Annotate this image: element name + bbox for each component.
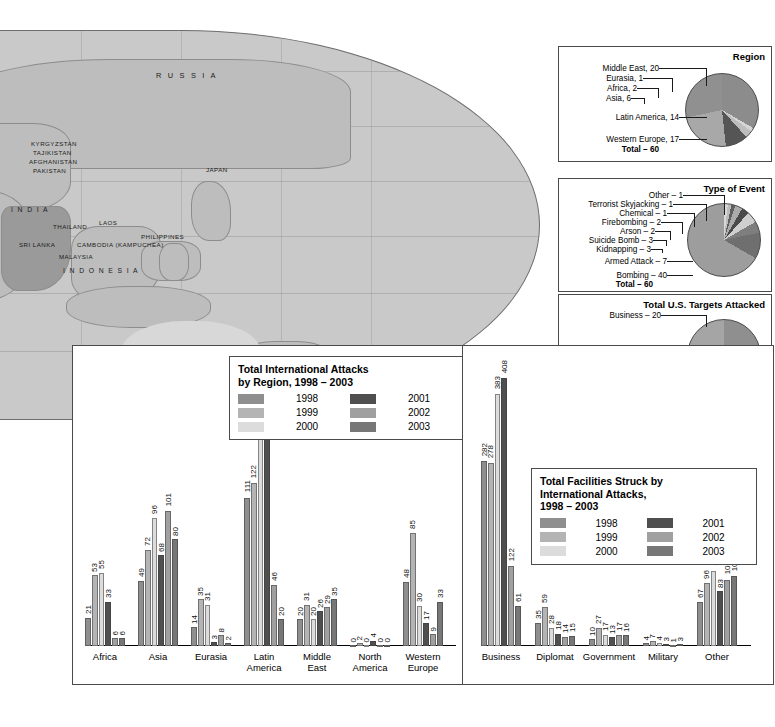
pie-slice-label: Middle East, 20 [603, 64, 659, 73]
bar-value-label: 2 [225, 636, 233, 640]
bar-value-label: 122 [508, 548, 516, 561]
bar-western-europe-2002 [430, 634, 436, 646]
bar-business-1999 [488, 463, 494, 646]
bar-middle-east-2000 [311, 619, 317, 646]
pie-slice-label: Arson – 2 [620, 227, 655, 236]
bar-value-label: 20 [278, 607, 286, 616]
category-label-diplomat: Diplomat [527, 651, 583, 662]
legend-swatch-2002 [350, 408, 376, 418]
map-label: TAJIKISTAN [33, 149, 72, 156]
bar-value-label: 31 [303, 592, 311, 601]
leader-line-vertical [706, 68, 707, 86]
bar-value-label: 101 [165, 493, 173, 506]
leader-line [661, 315, 707, 316]
bar-value-label: 30 [416, 593, 424, 602]
map-label: SRI LANKA [19, 241, 55, 248]
leader-line [673, 204, 707, 205]
map-label: CAMBODIA (KAMPUCHEA) [77, 241, 164, 248]
bar-value-label: 408 [501, 360, 509, 373]
pie-total-label: Total – 60 [616, 280, 653, 289]
legend-label-1999: 1999 [296, 407, 344, 418]
bar-other-1999 [704, 583, 710, 646]
category-label-latin-america: Latin America [236, 651, 292, 673]
bar-asia-2000 [152, 518, 158, 646]
map-label: R U S S I A [156, 71, 218, 80]
bar-north-america-2003 [384, 645, 390, 647]
category-label-government: Government [581, 651, 637, 662]
legend-label-1998: 1998 [296, 393, 344, 404]
category-label-other: Other [689, 651, 745, 662]
legend-label-2000: 2000 [595, 546, 641, 557]
facilities-legend-title: Total Facilities Struck by International… [540, 475, 748, 513]
bar-other-2003 [731, 576, 737, 646]
facilities-legend-title-line1: Total Facilities Struck by [540, 475, 748, 488]
pie-slice-label: Suicide Bomb – 3 [589, 236, 653, 245]
bar-eurasia-2001 [211, 642, 217, 646]
bar-north-america-2002 [377, 645, 383, 647]
bar-other-1998 [697, 602, 703, 646]
attacks-legend-entries: 199820011999200220002003 [238, 393, 456, 432]
bar-value-label: 80 [172, 527, 180, 536]
leader-line [679, 117, 707, 118]
bar-value-label: 8 [218, 628, 226, 632]
bar-value-label: 61 [515, 593, 523, 602]
bar-value-label: 6 [119, 631, 127, 635]
leader-line [653, 240, 667, 241]
legend-label-2002: 2002 [408, 407, 456, 418]
legend-label-1999: 1999 [595, 532, 641, 543]
bar-eurasia-2000 [205, 605, 211, 646]
attacks-legend: Total International Attacks by Region, 1… [229, 356, 465, 440]
leader-line [643, 78, 673, 79]
region-pie-panel: Region Middle East, 20Eurasia, 1Africa, … [558, 46, 772, 162]
category-label-military: Military [635, 651, 691, 662]
pie-slice-label: Latin America, 14 [616, 113, 679, 122]
map-label: PHILIPPINES [141, 233, 184, 240]
pie-slice-label: Bombing – 40 [616, 271, 667, 280]
pie-slice-label: Western Europe, 17 [606, 135, 679, 144]
bar-value-label: 96 [151, 505, 159, 514]
pie-slice-label: Chemical – 1 [619, 209, 667, 218]
facilities-struck-panel: 28227838340812261Business355928181415Dip… [462, 345, 774, 685]
leader-line-vertical [694, 213, 695, 227]
bar-value-label: 0 [384, 638, 392, 642]
legend-swatch-1998 [238, 394, 264, 404]
bar-government-2001 [609, 637, 615, 646]
map-label: PAKISTAN [33, 167, 66, 174]
bar-eurasia-2003 [225, 643, 231, 646]
bar-value-label: 3 [677, 637, 685, 641]
map-label: I N D O N E S I A [63, 267, 139, 274]
attacks-legend-title: Total International Attacks by Region, 1… [238, 363, 456, 388]
legend-swatch-1998 [540, 518, 566, 528]
legend-label-2000: 2000 [296, 421, 344, 432]
bar-value-label: 33 [105, 589, 113, 598]
event-pie-title: Type of Event [703, 183, 765, 194]
bar-business-1998 [481, 461, 487, 646]
legend-label-2003: 2003 [702, 546, 748, 557]
bar-middle-east-2002 [324, 607, 330, 646]
pie-slice-label: Other – 1 [649, 191, 683, 200]
bar-diplomat-2001 [555, 634, 561, 646]
leader-line-vertical [672, 78, 673, 92]
bar-africa-2002 [112, 638, 118, 646]
pie-total-label: Total – 60 [622, 145, 659, 154]
legend-label-2001: 2001 [702, 518, 748, 529]
leader-line-vertical [666, 240, 667, 246]
bar-diplomat-2000 [549, 628, 555, 646]
leader-line-vertical [724, 195, 725, 215]
leader-line [655, 231, 671, 232]
leader-line-vertical [658, 88, 659, 98]
leader-line [637, 88, 659, 89]
bar-diplomat-2003 [569, 636, 575, 646]
legend-swatch-2001 [350, 394, 376, 404]
bar-military-2002 [670, 645, 676, 647]
legend-label-2002: 2002 [702, 532, 748, 543]
legend-label-2001: 2001 [408, 393, 456, 404]
attacks-by-region-panel: 2153553366Africa4972966810180Asia1435313… [72, 345, 472, 685]
leader-line-vertical [682, 222, 683, 234]
bar-value-label: 33 [437, 589, 445, 598]
category-label-eurasia: Eurasia [183, 651, 239, 662]
bar-africa-2001 [105, 602, 111, 646]
bar-military-2003 [677, 644, 683, 646]
legend-swatch-2003 [350, 422, 376, 432]
bar-diplomat-2002 [562, 637, 568, 646]
